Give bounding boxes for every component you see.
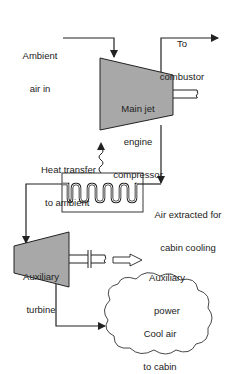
ambient-air-label-line1: Ambient bbox=[18, 50, 62, 61]
ambient-air-label-line2: air in bbox=[18, 83, 62, 94]
combustor-label-line1: To bbox=[158, 38, 206, 49]
air-extracted-label-line1: Air extracted for bbox=[151, 209, 225, 220]
heat-transfer-label: Heat transfer to ambient bbox=[41, 142, 96, 230]
ambient-air-label: Ambient air in bbox=[18, 28, 62, 116]
cabin-label: Cool air to cabin bbox=[135, 306, 185, 374]
ambient-air-pipe bbox=[63, 38, 114, 57]
compressor-label-line2: engine bbox=[110, 136, 166, 147]
heat-transfer-label-line2: to ambient bbox=[41, 197, 96, 208]
turbine-label: Auxiliary turbine bbox=[18, 249, 64, 337]
compressor-label-line1: Main jet bbox=[110, 103, 166, 114]
auxiliary-power-arrow bbox=[113, 254, 142, 266]
turbine-label-line2: turbine bbox=[18, 304, 64, 315]
turbine-label-line1: Auxiliary bbox=[18, 271, 64, 282]
turbine-shaft bbox=[69, 250, 106, 268]
heat-transfer-arrow bbox=[97, 142, 105, 173]
cabin-label-line1: Cool air bbox=[135, 328, 185, 339]
compressor-label-line3: compressor bbox=[110, 169, 166, 180]
cabin-label-line2: to cabin bbox=[135, 361, 185, 372]
heat-transfer-label-line1: Heat transfer bbox=[41, 164, 96, 175]
compressor-label: Main jet engine compressor bbox=[110, 81, 166, 202]
auxiliary-power-label-line1: Auxiliary bbox=[143, 272, 191, 283]
